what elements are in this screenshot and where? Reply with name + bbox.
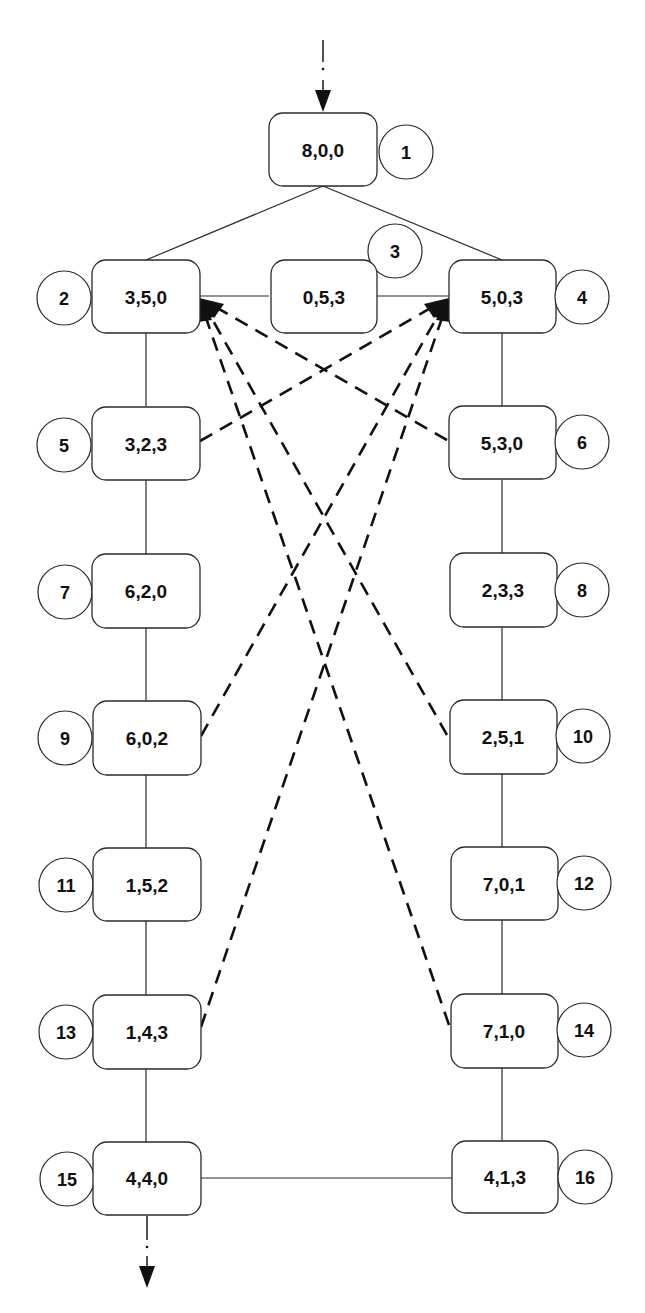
node-id-label: 2 (59, 289, 69, 309)
arrow-down-icon (315, 90, 331, 112)
node-id-label: 9 (60, 729, 70, 749)
node-id-label: 7 (60, 583, 70, 603)
state-label: 2,3,3 (482, 580, 524, 601)
node-id-label: 10 (573, 727, 593, 747)
state-node-15: 15 4,4,0 (40, 1142, 201, 1215)
node-id-label: 12 (574, 874, 594, 894)
state-node-4: 5,0,3 4 (449, 260, 609, 333)
state-label: 1,5,2 (126, 875, 168, 896)
node-id-label: 6 (577, 433, 587, 453)
state-diagram: 8,0,0 1 2 3,5,0 3 0,5,3 5,0,3 4 5 3,2,3 … (0, 0, 645, 1313)
state-label: 4,1,3 (484, 1167, 526, 1188)
node-id-label: 3 (390, 242, 400, 262)
state-node-8: 2,3,3 8 (450, 553, 609, 627)
node-id-label: 1 (401, 143, 411, 163)
arrow-down-icon (139, 1266, 155, 1288)
state-label: 7,0,1 (483, 874, 526, 895)
state-node-13: 13 1,4,3 (39, 995, 201, 1069)
state-node-1: 8,0,0 1 (269, 113, 433, 186)
state-node-16: 4,1,3 16 (452, 1141, 612, 1213)
node-id-label: 8 (577, 581, 587, 601)
state-label: 1,4,3 (126, 1022, 168, 1043)
node-id-label: 4 (577, 288, 587, 308)
state-label: 2,5,1 (482, 727, 525, 748)
state-label: 6,0,2 (126, 728, 168, 749)
state-node-9: 9 6,0,2 (38, 701, 201, 775)
state-node-14: 7,1,0 14 (451, 994, 611, 1068)
state-label: 5,3,0 (481, 433, 523, 454)
node-id-label: 15 (57, 1170, 77, 1190)
state-label: 0,5,3 (303, 287, 345, 308)
state-label: 5,0,3 (481, 287, 523, 308)
state-label: 4,4,0 (126, 1168, 168, 1189)
state-label: 8,0,0 (302, 140, 344, 161)
node-id-label: 11 (56, 876, 75, 896)
node-id-label: 16 (575, 1168, 595, 1188)
state-node-5: 5 3,2,3 (37, 407, 200, 480)
state-label: 6,2,0 (125, 581, 167, 602)
state-node-6: 5,3,0 6 (449, 406, 609, 479)
state-label: 3,5,0 (125, 287, 167, 308)
state-node-2: 2 3,5,0 (37, 260, 200, 333)
state-node-12: 7,0,1 12 (451, 847, 611, 920)
state-label: 7,1,0 (483, 1021, 525, 1042)
state-node-10: 2,5,1 10 (450, 700, 610, 774)
node-id-label: 5 (59, 436, 69, 456)
exit-arrow (139, 1216, 155, 1288)
node-id-label: 13 (56, 1023, 76, 1043)
dashed-arrows (198, 298, 450, 1027)
state-node-3: 3 0,5,3 (271, 224, 422, 333)
state-label: 3,2,3 (125, 434, 167, 455)
node-id-label: 14 (574, 1021, 594, 1041)
entry-arrow (315, 40, 331, 112)
state-node-11: 11 1,5,2 (39, 848, 201, 921)
state-node-7: 7 6,2,0 (38, 554, 200, 628)
